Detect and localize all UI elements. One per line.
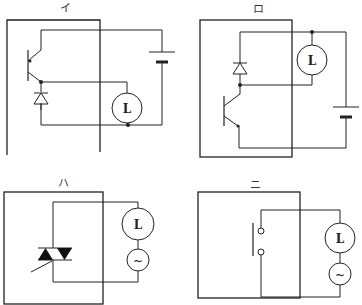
- wire: [41, 30, 162, 52]
- diagram-ha: ハ L ~: [4, 177, 154, 304]
- lamp-icon: L: [325, 223, 355, 253]
- lamp-icon: L: [122, 208, 154, 240]
- switch-icon: [253, 223, 264, 256]
- wire: [240, 32, 346, 107]
- lamp-icon: L: [297, 45, 327, 75]
- triac-icon: [31, 248, 72, 272]
- wire: [41, 82, 127, 93]
- svg-text:~: ~: [133, 254, 143, 268]
- svg-text:L: L: [134, 218, 143, 232]
- circuit-diagrams: イ L ロ: [0, 0, 362, 305]
- svg-text:~: ~: [335, 268, 345, 282]
- label-ha: ハ: [58, 177, 69, 190]
- label-ni: ニ: [250, 179, 261, 192]
- lamp-icon: L: [112, 93, 142, 123]
- transistor-icon: [224, 85, 240, 128]
- wire: [53, 202, 138, 248]
- wire: [240, 75, 312, 85]
- module-box: [200, 20, 292, 157]
- module-box: [7, 20, 100, 155]
- wire: [41, 62, 162, 125]
- diagram-ro: ロ L: [200, 3, 359, 157]
- transistor-icon: [28, 50, 41, 82]
- label-ro: ロ: [253, 3, 264, 16]
- diode-icon: [233, 63, 247, 85]
- diagram-i: イ L: [7, 2, 175, 155]
- module-box: [198, 192, 300, 298]
- ac-source-icon: ~: [127, 249, 149, 271]
- ac-source-icon: ~: [329, 263, 351, 285]
- diode-icon: [34, 82, 48, 110]
- svg-text:L: L: [308, 54, 317, 68]
- junction-dot: [126, 123, 130, 127]
- diagram-ni: ニ L ~: [198, 179, 355, 298]
- wire: [53, 260, 138, 282]
- svg-text:L: L: [123, 102, 132, 116]
- svg-text:L: L: [336, 232, 345, 246]
- label-i: イ: [60, 2, 71, 15]
